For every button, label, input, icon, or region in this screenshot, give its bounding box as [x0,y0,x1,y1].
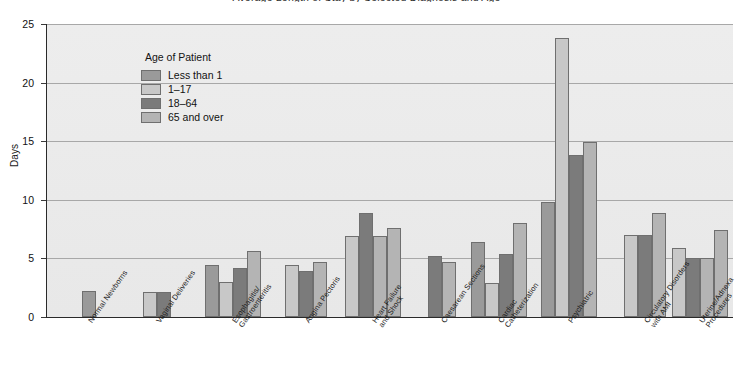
y-tick-mark [41,317,46,318]
y-tick-mark [41,83,46,84]
bar [485,283,499,317]
legend-item: 18–64 [141,97,291,110]
y-tick-label: 0 [8,312,34,323]
chart-legend: Age of Patient Less than 11–1718–6465 an… [141,51,291,125]
legend-items: Less than 11–1718–6465 and over [141,69,291,124]
legend-title: Age of Patient [145,51,291,63]
bar [638,235,652,317]
y-tick-mark [41,141,46,142]
legend-label: Less than 1 [168,70,222,81]
y-axis-line [46,24,47,318]
legend-swatch [141,84,161,95]
bar [205,265,219,317]
legend-label: 65 and over [168,112,223,123]
legend-item: 65 and over [141,111,291,124]
plot-area: Age of Patient Less than 11–1718–6465 an… [46,24,733,317]
gridline [46,24,733,25]
legend-item: 1–17 [141,83,291,96]
bar [345,236,359,317]
y-tick-label: 15 [8,136,34,147]
legend-item: Less than 1 [141,69,291,82]
legend-label: 18–64 [168,98,197,109]
bar [219,282,233,317]
legend-swatch [141,98,161,109]
bar [624,235,638,317]
y-tick-mark [41,200,46,201]
gridline [46,200,733,201]
chart-title: Average Length of Stay by Selected Diagn… [0,0,733,2]
legend-label: 1–17 [168,84,191,95]
y-axis-title: Days [9,126,20,186]
y-tick-mark [41,258,46,259]
bar [569,155,583,317]
y-tick-mark [41,24,46,25]
bar [359,213,373,317]
y-tick-label: 10 [8,195,34,206]
y-tick-label: 5 [8,253,34,264]
gridline [46,141,733,142]
legend-swatch [141,70,161,81]
bar [428,256,442,317]
bar [143,292,157,317]
y-tick-label: 25 [8,19,34,30]
y-tick-label: 20 [8,78,34,89]
bar [555,38,569,317]
legend-swatch [141,112,161,123]
bar [541,202,555,317]
bar [285,265,299,317]
